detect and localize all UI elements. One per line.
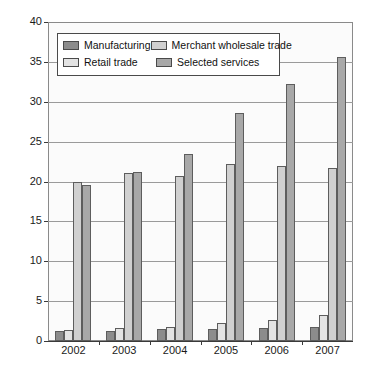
bar — [226, 164, 235, 341]
bar — [268, 320, 277, 341]
y-tick-mark — [44, 221, 48, 222]
bar — [157, 329, 166, 341]
gridline — [48, 261, 353, 262]
bar — [319, 315, 328, 341]
x-tick-label: 2006 — [251, 344, 302, 356]
y-tick-label: 25 — [10, 136, 42, 147]
bar — [166, 327, 175, 341]
legend-item-label: Retail trade — [84, 57, 138, 68]
legend-item-merchant-wholesale-trade: Merchant wholesale trade — [151, 40, 292, 51]
y-tick-mark — [44, 102, 48, 103]
bar — [124, 173, 133, 341]
x-tick-label: 2004 — [150, 344, 201, 356]
gridline — [48, 182, 353, 183]
legend-swatch-icon — [151, 41, 167, 50]
bar — [82, 185, 91, 341]
legend-item-label: Manufacturing — [84, 40, 151, 51]
bar — [175, 176, 184, 341]
bar — [235, 113, 244, 341]
legend-item-manufacturing: Manufacturing — [63, 40, 151, 51]
bar — [55, 331, 64, 341]
gridline — [48, 142, 353, 143]
legend-swatch-icon — [63, 58, 79, 67]
legend-item-selected-services: Selected services — [156, 57, 259, 68]
y-tick-label: 10 — [10, 255, 42, 266]
bar — [106, 331, 115, 341]
legend-item-label: Merchant wholesale trade — [172, 40, 292, 51]
y-tick-label: 5 — [10, 295, 42, 306]
bar-chart: 0510152025303540 20022003200420052006200… — [0, 0, 365, 377]
y-tick-label: 35 — [10, 56, 42, 67]
gridline — [48, 301, 353, 302]
gridline — [48, 102, 353, 103]
y-tick-mark — [44, 62, 48, 63]
x-tick-label: 2007 — [302, 344, 353, 356]
bar — [64, 330, 73, 341]
legend-row-2: Retail trade Selected services — [63, 54, 274, 71]
y-tick-label: 30 — [10, 96, 42, 107]
bar — [286, 84, 295, 341]
x-tick-label: 2003 — [99, 344, 150, 356]
y-tick-mark — [44, 22, 48, 23]
y-tick-mark — [44, 142, 48, 143]
bar — [217, 323, 226, 341]
legend-swatch-icon — [156, 58, 172, 67]
legend-item-label: Selected services — [177, 57, 259, 68]
gridline — [48, 221, 353, 222]
y-tick-label: 40 — [10, 16, 42, 27]
y-tick-label: 20 — [10, 176, 42, 187]
bar — [259, 328, 268, 341]
y-tick-mark — [44, 182, 48, 183]
bar — [208, 329, 217, 341]
bar — [337, 57, 346, 341]
bar — [133, 172, 142, 341]
x-tick-label: 2002 — [48, 344, 99, 356]
x-tick-label: 2005 — [201, 344, 252, 356]
y-tick-mark — [44, 261, 48, 262]
legend-swatch-icon — [63, 41, 79, 50]
bar — [73, 182, 82, 341]
legend-item-retail-trade: Retail trade — [63, 57, 156, 68]
chart-legend: Manufacturing Merchant wholesale trade R… — [57, 33, 280, 76]
y-tick-label: 15 — [10, 215, 42, 226]
bar — [310, 327, 319, 341]
bar — [184, 154, 193, 341]
bar — [115, 328, 124, 341]
bar — [328, 168, 337, 341]
legend-row-1: Manufacturing Merchant wholesale trade — [63, 37, 274, 54]
y-tick-label: 0 — [10, 335, 42, 346]
bar — [277, 166, 286, 341]
y-tick-mark — [44, 301, 48, 302]
